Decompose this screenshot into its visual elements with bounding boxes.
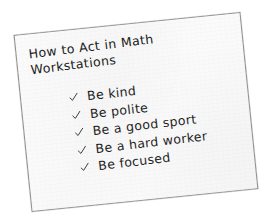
page-title: How to Act in Math Workstations [26,28,181,78]
poster-photo: How to Act in Math Workstations Be kind [0,0,272,224]
checkmark-icon [77,145,87,155]
checkmark-icon [74,127,84,137]
paper-surface: How to Act in Math Workstations Be kind [14,12,259,212]
checkmark-icon [69,92,79,102]
checkmark-icon [72,110,82,120]
rules-list: Be kind Be polite [30,72,246,180]
poster-content: How to Act in Math Workstations Be kind [26,26,249,202]
checkmark-icon [80,162,90,172]
paper-sheet: How to Act in Math Workstations Be kind [14,12,259,212]
